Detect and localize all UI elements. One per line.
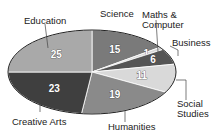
label-maths-2: Computer [142,20,184,30]
label-science: Science [100,9,134,19]
slice-value: 6 [150,54,156,65]
label-humanities: Humanities [108,122,156,132]
label-business: Business [172,38,211,48]
slice-value: 15 [109,44,121,55]
label-creative-arts: Creative Arts [12,117,66,127]
slice-value: 19 [109,89,121,100]
label-education: Education [24,16,66,26]
slice-value: 11 [136,70,147,81]
slice-value: 23 [49,83,61,94]
slice-value: 25 [51,49,63,60]
label-social-2: Studies [177,109,209,119]
